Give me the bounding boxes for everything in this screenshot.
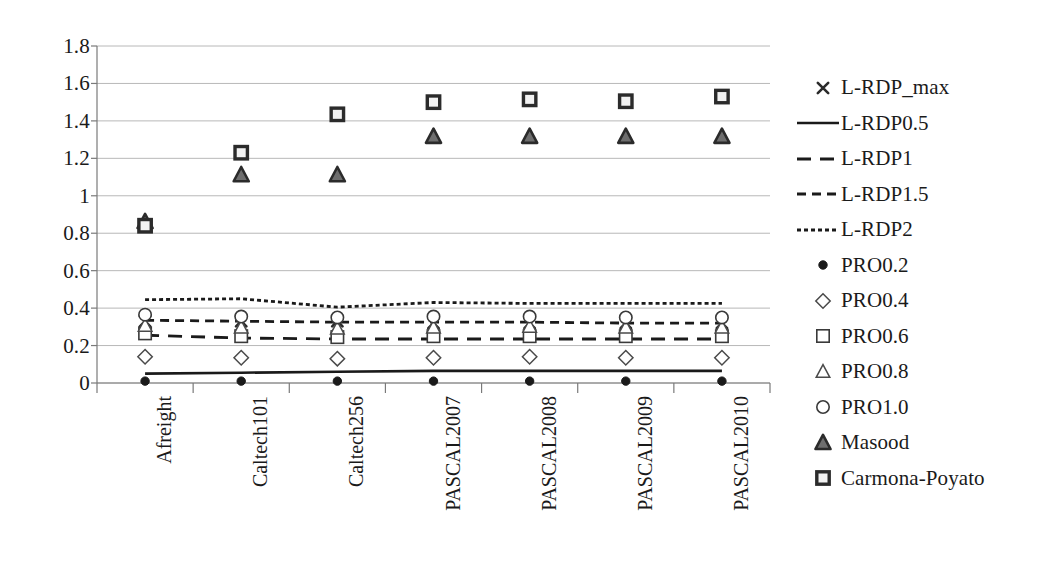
chart-figure: 00.20.40.60.811.21.41.61.8 AfreightCalte… — [0, 0, 1042, 572]
data-point-filled-circle — [819, 261, 827, 269]
x-tick-label: Caltech101 — [250, 396, 270, 487]
x-tick-label: PASCAL2007 — [443, 396, 463, 511]
data-point-open-square — [817, 330, 829, 342]
legend-item[interactable]: PRO0.8 — [795, 354, 1035, 390]
data-point-cross — [818, 83, 828, 93]
legend-item[interactable]: Carmona-Poyato — [795, 461, 1035, 497]
legend-item[interactable]: L-RDP1 — [795, 141, 1035, 177]
legend-item-label: L-RDP1 — [841, 148, 913, 169]
legend-item[interactable]: L-RDP2 — [795, 212, 1035, 248]
x-tick-label: PASCAL2010 — [731, 396, 751, 511]
legend-marker-open-square-icon — [795, 325, 841, 347]
x-tick-label: PASCAL2009 — [635, 396, 655, 511]
legend-marker-filled-circle-icon — [795, 254, 841, 276]
legend-item[interactable]: Masood — [795, 425, 1035, 461]
legend-marker-open-triangle-icon — [795, 361, 841, 383]
legend-marker-solid-line-icon — [795, 112, 841, 134]
x-tick-label: Afreight — [154, 396, 174, 464]
legend-item-label: L-RDP_max — [841, 77, 949, 98]
legend-marker-filled-triangle-icon — [795, 432, 841, 454]
x-axis-tick-labels: AfreightCaltech101Caltech256PASCAL2007PA… — [0, 0, 800, 572]
legend-item[interactable]: PRO0.6 — [795, 319, 1035, 355]
data-point-open-diamond — [816, 294, 830, 308]
legend-item-label: L-RDP1.5 — [841, 184, 929, 205]
legend-item-label: Carmona-Poyato — [841, 468, 985, 489]
x-tick-label-text: Caltech256 — [346, 396, 366, 487]
data-point-filled-triangle — [815, 435, 830, 449]
legend-marker-long-dash-line-icon — [795, 148, 841, 170]
legend-marker-fine-dash-line-icon — [795, 219, 841, 241]
chart-legend: L-RDP_maxL-RDP0.5L-RDP1L-RDP1.5L-RDP2PRO… — [795, 70, 1035, 496]
x-tick-label: Caltech256 — [346, 396, 366, 487]
legend-item-label: PRO0.4 — [841, 290, 909, 311]
legend-marker-filled-square-icon — [795, 467, 841, 489]
x-tick-label-text: PASCAL2009 — [635, 396, 655, 511]
x-tick-label-text: PASCAL2008 — [539, 396, 559, 511]
legend-item-label: Masood — [841, 432, 909, 453]
legend-marker-open-diamond-icon — [795, 290, 841, 312]
legend-marker-open-circle-icon — [795, 396, 841, 418]
legend-item[interactable]: L-RDP1.5 — [795, 177, 1035, 213]
data-point-filled-square — [817, 472, 829, 484]
legend-marker-medium-dash-line-icon — [795, 183, 841, 205]
x-tick-label-text: Afreight — [154, 396, 174, 464]
legend-item[interactable]: PRO0.4 — [795, 283, 1035, 319]
legend-item[interactable]: L-RDP0.5 — [795, 106, 1035, 142]
legend-item-label: PRO1.0 — [841, 397, 909, 418]
data-point-open-triangle — [816, 364, 830, 377]
legend-marker-cross-icon — [795, 77, 841, 99]
x-tick-label: PASCAL2008 — [539, 396, 559, 511]
legend-item-label: PRO0.2 — [841, 255, 909, 276]
legend-item-label: L-RDP2 — [841, 219, 913, 240]
legend-item[interactable]: PRO1.0 — [795, 390, 1035, 426]
legend-item-label: L-RDP0.5 — [841, 113, 929, 134]
x-tick-label-text: PASCAL2010 — [731, 396, 751, 511]
legend-item-label: PRO0.6 — [841, 326, 909, 347]
data-point-open-circle — [817, 401, 829, 413]
legend-item[interactable]: PRO0.2 — [795, 248, 1035, 284]
legend-item-label: PRO0.8 — [841, 361, 909, 382]
x-tick-label-text: Caltech101 — [250, 396, 270, 487]
x-tick-label-text: PASCAL2007 — [443, 396, 463, 511]
legend-item[interactable]: L-RDP_max — [795, 70, 1035, 106]
